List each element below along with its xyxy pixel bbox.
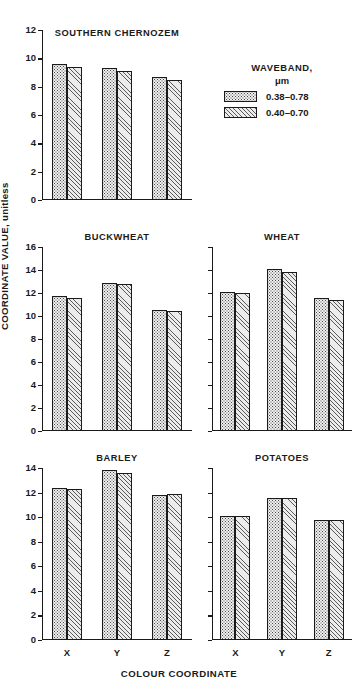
y-axis-tick-label: 8 xyxy=(31,82,36,92)
bar-x-series1 xyxy=(52,64,67,200)
x-axis-tick-label-z: Z xyxy=(164,647,170,658)
y-axis-tick-label: 2 xyxy=(31,167,36,177)
bar-y-series2 xyxy=(117,71,132,200)
y-axis-tick xyxy=(208,385,212,386)
y-axis-tick xyxy=(208,431,212,432)
chart-panel-potatoes: XYZPOTATOES xyxy=(212,468,352,640)
y-axis-tick xyxy=(208,247,212,248)
y-axis-tick xyxy=(38,493,42,494)
y-axis-tick-label: 0 xyxy=(31,426,36,436)
bar-z-series1 xyxy=(152,77,167,200)
y-axis-tick xyxy=(38,566,42,567)
legend-unit-label: μm xyxy=(212,75,352,86)
bar-group-y xyxy=(267,468,297,640)
bar-x-series1 xyxy=(52,296,67,431)
bar-z-series2 xyxy=(329,300,344,431)
bar-group-z xyxy=(152,30,182,200)
y-axis-tick-label: 4 xyxy=(31,139,36,149)
x-axis-tick-label-x: X xyxy=(64,647,70,658)
y-axis-tick-label: 12 xyxy=(25,25,36,35)
legend-swatch-hatch-icon xyxy=(224,107,257,118)
y-axis-tick xyxy=(38,172,42,173)
y-axis-tick xyxy=(38,247,42,248)
bar-z-series1 xyxy=(152,310,167,431)
y-axis-tick-label: 14 xyxy=(25,265,36,275)
chart-panel-barley: 02468101214XYZBARLEY xyxy=(42,468,192,640)
y-axis-tick xyxy=(38,615,42,616)
y-axis-tick xyxy=(38,270,42,271)
y-axis-tick-label: 10 xyxy=(25,311,36,321)
y-axis-tick xyxy=(208,542,212,543)
y-axis-tick xyxy=(38,339,42,340)
bar-x-series1 xyxy=(220,292,235,431)
bar-z-series2 xyxy=(167,311,182,431)
y-axis-line xyxy=(212,247,213,431)
bar-y-series1 xyxy=(102,283,117,431)
bar-y-series2 xyxy=(282,498,297,641)
y-axis-tick-label: 16 xyxy=(25,242,36,252)
legend-swatch-dotted-icon xyxy=(224,91,257,102)
y-axis-tick xyxy=(38,542,42,543)
y-axis-title: COORDINATE VALUE, unitless xyxy=(0,182,10,330)
x-axis-title: COLOUR COORDINATE xyxy=(121,668,238,679)
legend-item-label: 0.38–0.78 xyxy=(266,91,309,102)
bar-x-series2 xyxy=(67,67,82,200)
y-axis-tick xyxy=(38,316,42,317)
bar-y-series1 xyxy=(267,498,282,641)
bar-z-series2 xyxy=(167,494,182,640)
y-axis-tick xyxy=(38,640,42,641)
panel-title: SOUTHERN CHERNOZEM xyxy=(55,28,180,38)
y-axis-tick xyxy=(38,431,42,432)
y-axis-tick xyxy=(38,293,42,294)
y-axis-tick xyxy=(38,591,42,592)
y-axis-tick-label: 4 xyxy=(31,380,36,390)
y-axis-tick-label: 6 xyxy=(31,562,36,572)
bar-y-series2 xyxy=(117,284,132,431)
legend: WAVEBAND, μm 0.38–0.78 0.40–0.70 xyxy=(212,62,352,118)
y-axis-tick-label: 8 xyxy=(31,537,36,547)
bar-group-x xyxy=(52,247,82,431)
chart-panel-buckwheat: 0246810121416BUCKWHEAT xyxy=(42,247,192,431)
bar-y-series1 xyxy=(267,269,282,431)
y-axis-tick-label: 4 xyxy=(31,586,36,596)
bar-z-series2 xyxy=(167,80,182,200)
y-axis-tick-label: 6 xyxy=(31,110,36,120)
legend-item: 0.38–0.78 xyxy=(212,91,352,102)
panel-title: POTATOES xyxy=(255,453,309,463)
legend-title: WAVEBAND, xyxy=(212,62,352,73)
y-axis-tick-label: 10 xyxy=(25,54,36,64)
y-axis-line xyxy=(42,468,43,640)
y-axis-tick xyxy=(208,316,212,317)
y-axis-tick xyxy=(38,143,42,144)
bar-y-series1 xyxy=(102,470,117,640)
bar-x-series2 xyxy=(235,293,250,431)
bar-z-series2 xyxy=(329,520,344,640)
y-axis-tick-label: 0 xyxy=(31,635,36,645)
x-axis-tick-label-y: Y xyxy=(279,647,285,658)
chart-panel-wheat: WHEAT xyxy=(212,247,352,431)
bar-y-series1 xyxy=(102,68,117,200)
y-axis-tick xyxy=(208,468,212,469)
bar-group-x xyxy=(52,468,82,640)
y-axis-tick-label: 12 xyxy=(25,288,36,298)
bar-x-series2 xyxy=(67,489,82,640)
y-axis-tick xyxy=(208,640,212,641)
bar-group-y xyxy=(102,468,132,640)
x-axis-tick-label-x: X xyxy=(232,647,238,658)
y-axis-tick-label: 6 xyxy=(31,357,36,367)
bar-group-x xyxy=(220,247,250,431)
y-axis-line xyxy=(42,30,43,200)
panel-title: WHEAT xyxy=(264,232,300,242)
bar-group-z xyxy=(314,247,344,431)
plot-area: WHEAT xyxy=(212,247,352,431)
legend-item-label: 0.40–0.70 xyxy=(266,107,309,118)
y-axis-tick xyxy=(38,362,42,363)
y-axis-tick xyxy=(38,87,42,88)
bar-y-series2 xyxy=(282,272,297,431)
y-axis-tick xyxy=(208,517,212,518)
y-axis-line xyxy=(212,468,213,640)
y-axis-tick-label: 0 xyxy=(31,195,36,205)
y-axis-tick xyxy=(208,270,212,271)
y-axis-tick xyxy=(208,293,212,294)
y-axis-tick xyxy=(208,408,212,409)
